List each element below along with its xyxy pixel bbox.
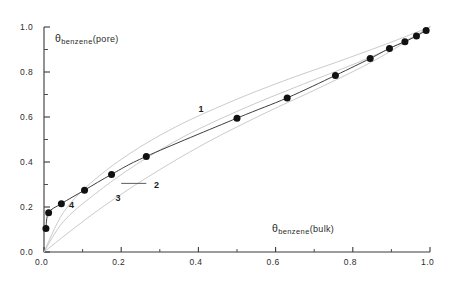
data-point-marker	[143, 153, 150, 160]
y-axis-label: θbenzene(pore)	[55, 28, 119, 46]
y-axis-tick-label: 1.0	[20, 22, 33, 32]
y-axis-tick-label: 0.0	[20, 247, 33, 257]
data-point-marker	[413, 33, 420, 40]
x-axis-subscript: benzene	[278, 227, 310, 236]
x-axis-label: θbenzene(bulk)	[272, 218, 334, 236]
x-axis-paren: (bulk)	[310, 224, 334, 234]
y-axis-tick-label: 0.4	[20, 157, 33, 167]
data-point-marker	[367, 55, 374, 62]
data-point-marker	[401, 38, 408, 45]
x-axis-tick-label: 0.8	[344, 257, 357, 267]
data-point-marker	[81, 187, 88, 194]
y-axis-tick-label: 0.2	[20, 202, 33, 212]
data-point-marker	[332, 72, 339, 79]
curve-label-2: 2	[154, 180, 159, 190]
data-point-marker	[108, 171, 115, 178]
y-axis-tick-label: 0.8	[20, 67, 33, 77]
y-axis-tick-label: 0.6	[20, 112, 33, 122]
data-point-marker	[423, 27, 430, 34]
x-axis-tick-label: 0.6	[267, 257, 280, 267]
x-axis-tick-label: 0.0	[35, 257, 48, 267]
data-point-marker	[58, 200, 65, 207]
x-axis-tick-label: 0.4	[189, 257, 202, 267]
y-axis-subscript: benzene	[61, 37, 93, 46]
x-axis-tick-label: 0.2	[112, 257, 125, 267]
data-point-marker	[42, 225, 49, 232]
data-point-marker	[234, 115, 241, 122]
curve-label-1: 1	[198, 104, 203, 114]
x-axis-tick-label: 1.0	[421, 257, 434, 267]
data-point-marker	[284, 94, 291, 101]
y-axis-paren: (pore)	[93, 34, 119, 44]
curve-label-4: 4	[69, 200, 74, 210]
data-point-marker	[386, 45, 393, 52]
data-point-marker	[45, 209, 52, 216]
curve-label-3: 3	[115, 193, 120, 203]
